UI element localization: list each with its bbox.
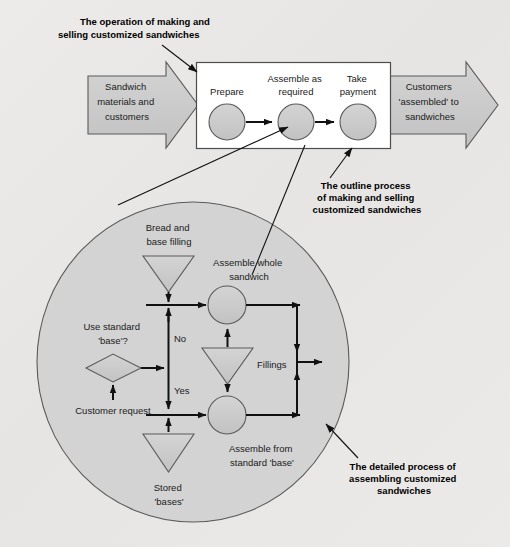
leader-line-detailed-process (326, 424, 358, 458)
label-customer-request: Customer request (75, 405, 151, 416)
label-branch-no: No (174, 333, 186, 344)
step-label-prepare: Prepare (210, 86, 244, 97)
label-fillings: Fillings (257, 359, 287, 370)
process-diagram: Sandwich materials and customers Custome… (0, 0, 510, 547)
input-arrow-label: Sandwich materials and customers (97, 81, 157, 122)
activity-circle-assemble-from-base (208, 396, 246, 434)
figure-canvas: Sandwich materials and customers Custome… (0, 0, 510, 547)
label-branch-yes: Yes (174, 385, 190, 396)
annotation-detailed-process: The detailed process of assembling custo… (349, 461, 459, 496)
annotation-outline-process: The outline process of making and sellin… (313, 180, 422, 215)
step-circle-payment (340, 104, 376, 140)
activity-circle-assemble-whole (208, 286, 246, 324)
annotation-operation: The operation of making and selling cust… (58, 16, 212, 40)
step-circle-assemble (278, 104, 314, 140)
step-circle-prepare (209, 104, 245, 140)
leader-line-outline-process (330, 148, 352, 178)
output-arrow-label: Customers 'assembled' to sandwiches (399, 81, 462, 122)
